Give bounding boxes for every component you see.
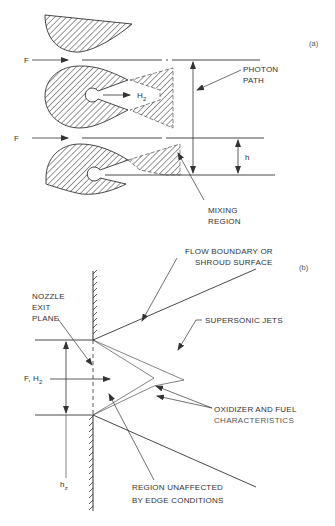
nozzle-label-2: EXIT xyxy=(32,303,51,312)
region-label-2: BY EDGE CONDITIONS xyxy=(132,496,223,505)
characteristics-leader-1 xyxy=(156,386,212,408)
wall-lower-hatch xyxy=(89,416,93,510)
middle-nozzle-block xyxy=(45,66,128,128)
flow-boundary-upper xyxy=(93,269,256,340)
flow-label-top: F xyxy=(24,56,29,65)
flow-boundary-leader xyxy=(142,258,177,321)
bottom-nozzle-block xyxy=(46,144,128,194)
h-label: h xyxy=(245,153,250,162)
hz-label: hz xyxy=(60,480,68,491)
top-nozzle-block xyxy=(45,15,132,52)
panel-b-tag: (b) xyxy=(299,263,309,272)
nozzle-leader xyxy=(58,319,92,365)
panel-a-tag: (a) xyxy=(309,39,319,48)
mixing-region-label: MIXING xyxy=(208,206,238,215)
photon-path-label: PHOTON xyxy=(243,65,278,74)
wall-upper-hatch xyxy=(93,270,97,334)
region-leader xyxy=(109,394,154,480)
flow-boundary-label-2: SHROUD SURFACE xyxy=(195,258,272,267)
flow-label-bottom: F xyxy=(14,134,19,143)
nozzle-label-3: PLANE xyxy=(32,314,59,323)
panel-b: hz F, H2 FLOW BOUNDARY OR SHROUD SURFACE… xyxy=(22,247,309,511)
supersonic-leader xyxy=(178,320,202,350)
characteristics-label-2: CHARACTERISTICS xyxy=(214,416,294,425)
characteristic-inner xyxy=(93,340,154,378)
characteristics-label: OXIDIZER AND FUEL xyxy=(214,405,297,414)
characteristics-leader-2 xyxy=(157,396,212,408)
characteristic-outer xyxy=(93,340,184,415)
flow-boundary-label: FLOW BOUNDARY OR xyxy=(185,247,273,256)
mixing-region-leader xyxy=(178,153,204,200)
region-label: REGION UNAFFECTED xyxy=(132,483,223,492)
supersonic-jets-label: SUPERSONIC JETS xyxy=(205,316,283,325)
characteristic-lower xyxy=(93,378,154,415)
photon-path-label-2: PATH xyxy=(243,76,264,85)
flow-boundary-lower xyxy=(93,415,256,487)
panel-a: H2 h F F PHOTON PATH MIXING REGION (a) xyxy=(14,15,319,226)
mixing-wedge-bottom xyxy=(128,144,180,175)
photon-path-leader xyxy=(197,70,241,90)
nozzle-mixing-diagram: H2 h F F PHOTON PATH MIXING REGION (a) xyxy=(0,0,335,526)
mixing-region-label-2: REGION xyxy=(208,217,241,226)
nozzle-label: NOZZLE xyxy=(32,292,65,301)
